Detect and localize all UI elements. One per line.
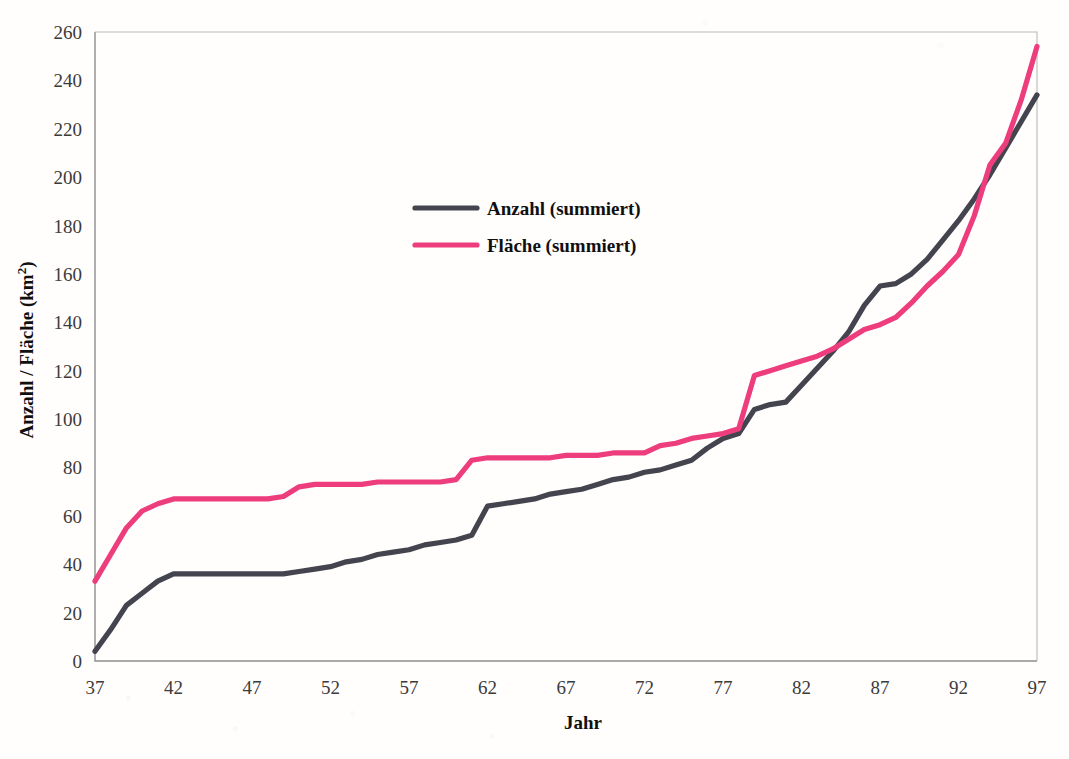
chart-figure: 020406080100120140160180200220240260 374… [0,0,1069,759]
y-tick-label: 120 [54,361,83,382]
x-axis-title: Jahr [564,712,603,733]
y-tick-label: 220 [54,119,83,140]
y-tick-label: 40 [63,554,82,575]
y-tick-label: 60 [63,506,82,527]
x-tick-label: 47 [243,677,262,698]
series-line-anzahl [95,95,1037,651]
x-tick-label: 87 [871,677,890,698]
y-axis-tick-labels: 020406080100120140160180200220240260 [54,22,83,672]
x-tick-label: 82 [792,677,811,698]
x-tick-label: 62 [478,677,497,698]
x-tick-label: 97 [1028,677,1047,698]
x-tick-label: 37 [86,677,105,698]
y-tick-label: 140 [54,312,83,333]
line-chart: 020406080100120140160180200220240260 374… [0,0,1069,759]
y-tick-label: 80 [63,457,82,478]
y-tick-label: 20 [63,603,82,624]
chart-legend: Anzahl (summiert)Fläche (summiert) [415,198,641,257]
y-tick-label: 100 [54,409,83,430]
svg-text:Anzahl / Fläche (km2): Anzahl / Fläche (km2) [14,262,38,439]
y-tick-label: 0 [73,651,83,672]
x-axis-tick-labels: 37424752576267727782879297 [86,677,1047,698]
x-tick-label: 67 [557,677,576,698]
y-tick-label: 180 [54,216,83,237]
series-paths [95,47,1037,652]
y-tick-label: 260 [54,22,83,43]
x-tick-label: 77 [714,677,733,698]
x-tick-label: 72 [635,677,654,698]
legend-label-anzahl: Anzahl (summiert) [487,198,641,220]
x-tick-label: 92 [949,677,968,698]
plot-frame [95,32,1037,661]
y-tick-label: 240 [54,70,83,91]
x-tick-label: 52 [321,677,340,698]
x-tick-label: 42 [164,677,183,698]
y-tick-label: 160 [54,264,83,285]
y-axis-title: Anzahl / Fläche (km2) [14,262,38,439]
y-tick-label: 200 [54,167,83,188]
x-tick-label: 57 [400,677,419,698]
series-line-flaeche [95,47,1037,582]
legend-label-flaeche: Fläche (summiert) [487,235,636,257]
